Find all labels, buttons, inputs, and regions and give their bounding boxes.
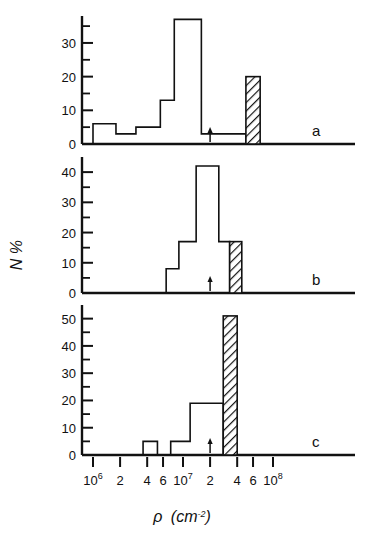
figure-container: 0102030a010203040b01020304050c 106246107…: [0, 0, 365, 554]
panel-b: 010203040b: [62, 157, 355, 301]
y-tick-label: 20: [62, 70, 76, 85]
panels-group: 0102030a010203040b01020304050c: [62, 16, 355, 463]
panel-letter-a: a: [312, 122, 321, 139]
panel-letter-b: b: [312, 271, 320, 288]
x-tick-label: 4: [144, 473, 151, 488]
histogram-outline: [166, 166, 230, 293]
x-tick-label: 107: [173, 471, 192, 488]
unit-open: (cm: [171, 508, 198, 525]
x-tick-label: 108: [263, 471, 282, 488]
y-tick-label: 40: [62, 165, 76, 180]
y-tick-label: 0: [69, 137, 76, 152]
y-axis-title-text: N %: [8, 240, 25, 270]
arrow-marker-icon: [207, 276, 212, 291]
y-tick-label: 20: [62, 226, 76, 241]
x-tick-label: 6: [159, 473, 166, 488]
histogram-figure: 0102030a010203040b01020304050c 106246107…: [0, 0, 365, 554]
x-axis-title-text: ρ (cm-2): [152, 508, 211, 525]
panel-c: 01020304050c: [62, 305, 355, 463]
x-tick-label: 2: [116, 473, 123, 488]
histogram-outline: [143, 403, 223, 455]
x-axis: 106246107246108: [83, 457, 282, 488]
arrow-marker-icon: [207, 438, 212, 453]
y-tick-label: 30: [62, 366, 76, 381]
histogram-outline: [93, 19, 246, 144]
y-tick-label: 10: [62, 103, 76, 118]
y-tick-label: 30: [62, 195, 76, 210]
x-tick-label: 4: [234, 473, 241, 488]
x-axis-title: ρ (cm-2): [152, 508, 211, 525]
y-tick-label: 0: [69, 286, 76, 301]
y-tick-label: 0: [69, 448, 76, 463]
y-tick-label: 20: [62, 393, 76, 408]
panel-a: 0102030a: [62, 16, 355, 152]
hatched-bar: [246, 77, 260, 144]
y-tick-label: 10: [62, 256, 76, 271]
y-tick-label: 50: [62, 312, 76, 327]
rho-symbol: ρ: [152, 508, 162, 525]
y-tick-label: 10: [62, 421, 76, 436]
x-tick-label: 106: [83, 471, 102, 488]
unit-close: ): [203, 508, 210, 525]
y-tick-label: 40: [62, 339, 76, 354]
y-tick-label: 30: [62, 36, 76, 51]
panel-letter-c: c: [312, 433, 320, 450]
x-tick-label: 2: [206, 473, 213, 488]
y-axis-title: N %: [8, 240, 25, 270]
x-tick-label: 6: [249, 473, 256, 488]
hatched-bar: [230, 242, 242, 293]
hatched-bar: [223, 316, 237, 455]
unit-exponent: -2: [197, 509, 205, 519]
